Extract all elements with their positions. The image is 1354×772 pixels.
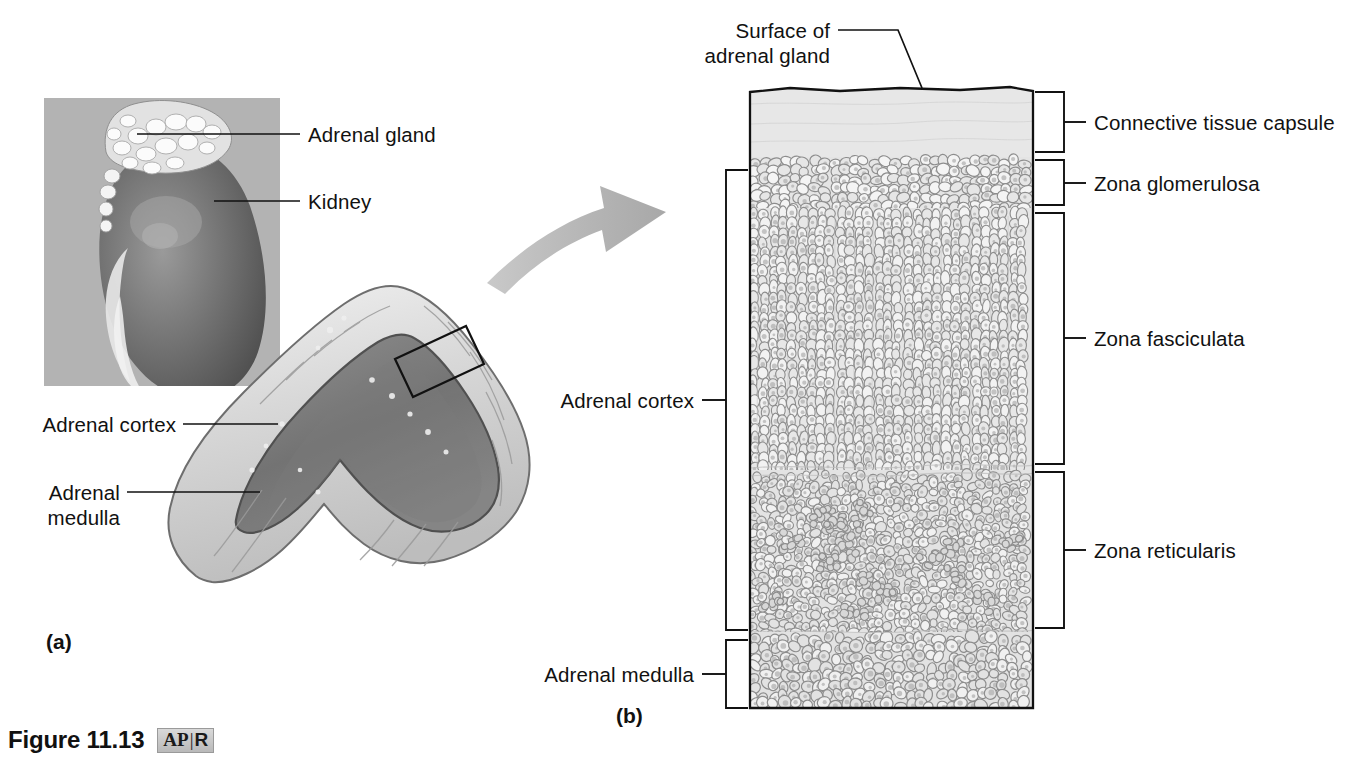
label-adrenal-cortex-a: Adrenal cortex (0, 412, 176, 437)
kidney-highlight-core (142, 223, 178, 249)
apr-badge-right: R (194, 729, 208, 750)
label-adrenal-medulla-a-line1: Adrenal (0, 480, 120, 505)
panel-b-left-brackets (702, 170, 748, 708)
leader-surface-of-adrenal-gland (838, 30, 922, 88)
label-surface-of-adrenal-gland-line2: adrenal gland (580, 43, 830, 68)
label-kidney: Kidney (308, 189, 371, 214)
panel-b-histology (702, 30, 1086, 714)
panel-tag-a: (a) (46, 630, 72, 654)
figure-number: Figure 11.13 (8, 726, 144, 753)
apr-badge: AP|R (157, 728, 214, 753)
label-zona-reticularis: Zona reticularis (1094, 538, 1236, 563)
panel-tag-b: (b) (616, 704, 643, 728)
label-adrenal-cortex-b: Adrenal cortex (460, 388, 694, 413)
figure-adrenal-gland: Adrenal gland Kidney Adrenal cortex Adre… (0, 0, 1354, 772)
bracket-zona-reticularis (1035, 472, 1064, 628)
zona-fasciculata-cells (747, 205, 1029, 478)
bracket-zona-fasciculata (1035, 213, 1064, 464)
label-connective-tissue-capsule: Connective tissue capsule (1094, 110, 1335, 135)
bracket-connective-tissue-capsule (1035, 92, 1064, 152)
apr-badge-left: AP (163, 729, 188, 750)
bracket-zona-glomerulosa (1035, 160, 1064, 205)
bracket-adrenal-cortex (726, 170, 748, 630)
label-zona-glomerulosa: Zona glomerulosa (1094, 171, 1260, 196)
bracket-adrenal-medulla (726, 640, 748, 708)
curved-arrow-icon (487, 186, 666, 294)
figure-caption: Figure 11.13AP|R (8, 726, 214, 754)
label-zona-fasciculata: Zona fasciculata (1094, 326, 1245, 351)
label-adrenal-medulla-a-line2: medulla (0, 505, 120, 530)
panel-b-right-brackets (1035, 92, 1086, 628)
label-surface-of-adrenal-gland-line1: Surface of (580, 18, 830, 43)
histology-content (743, 86, 1038, 714)
label-adrenal-gland: Adrenal gland (308, 122, 436, 147)
panel-a-illustration (44, 98, 666, 582)
label-adrenal-medulla-b: Adrenal medulla (440, 662, 694, 687)
